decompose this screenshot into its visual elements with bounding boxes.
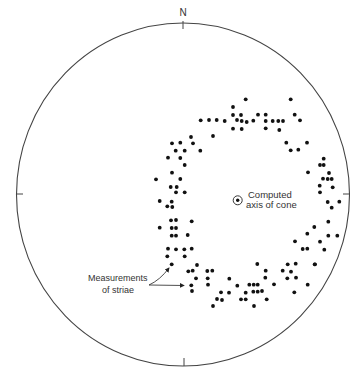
- stria-point: [244, 291, 248, 295]
- stria-point: [227, 277, 231, 281]
- stria-point: [251, 290, 255, 294]
- stria-point: [322, 248, 326, 252]
- stria-point: [178, 141, 182, 145]
- stria-point: [190, 289, 194, 293]
- stria-point: [169, 185, 173, 189]
- stria-point: [251, 119, 255, 123]
- stria-point: [174, 226, 178, 230]
- stria-point: [335, 234, 339, 238]
- stria-point: [183, 149, 187, 153]
- stria-point: [191, 141, 195, 145]
- stria-point: [305, 232, 309, 236]
- north-label: N: [179, 7, 186, 18]
- stria-point: [306, 283, 310, 287]
- stria-point: [199, 118, 203, 122]
- stria-point: [264, 269, 268, 273]
- stereonet-canvas: N Computed axis of cone Measurements of …: [0, 0, 358, 383]
- stria-point: [239, 113, 243, 117]
- stria-point: [281, 119, 285, 123]
- stria-point: [183, 163, 187, 167]
- stria-point: [194, 276, 198, 280]
- stria-point: [260, 289, 264, 293]
- stria-point: [247, 283, 251, 287]
- stria-point: [256, 283, 260, 287]
- stria-point: [231, 113, 235, 117]
- stria-point: [330, 206, 334, 210]
- stria-point: [327, 171, 331, 175]
- stria-point: [326, 220, 330, 224]
- stria-point: [289, 148, 293, 152]
- stria-point: [210, 269, 214, 273]
- stria-point: [170, 234, 174, 238]
- stria-point: [166, 247, 170, 251]
- stria-point: [296, 148, 300, 152]
- stria-point: [211, 134, 215, 138]
- stria-point: [305, 247, 309, 251]
- stria-point: [240, 127, 244, 131]
- stria-point: [235, 118, 239, 122]
- stria-point: [158, 199, 162, 203]
- stria-point: [198, 149, 202, 153]
- stria-point: [293, 239, 297, 243]
- stria-point: [158, 226, 162, 230]
- stria-point: [298, 118, 302, 122]
- stria-point: [206, 276, 210, 280]
- stria-point: [318, 184, 322, 188]
- stria-point: [220, 298, 224, 302]
- stria-point: [170, 141, 174, 145]
- stria-point: [276, 119, 280, 123]
- stria-point: [240, 119, 244, 123]
- stria-point: [244, 297, 248, 301]
- stria-point: [235, 284, 239, 288]
- stria-point: [322, 157, 326, 161]
- stria-point: [223, 119, 227, 123]
- stria-point: [318, 163, 322, 167]
- stria-point: [294, 276, 298, 280]
- stria-point: [322, 163, 326, 167]
- stria-point: [264, 119, 268, 123]
- pointer-arrow-right: [149, 285, 184, 286]
- stria-point: [231, 105, 235, 109]
- stria-point: [186, 269, 190, 273]
- stria-point: [231, 127, 235, 131]
- stria-point: [170, 262, 174, 266]
- stria-point: [190, 247, 194, 251]
- stria-point: [244, 97, 248, 101]
- stria-point: [189, 283, 193, 287]
- stria-point: [252, 304, 256, 308]
- stria-point: [284, 141, 288, 145]
- stria-point: [190, 219, 194, 223]
- stria-point: [174, 190, 178, 194]
- stria-point: [165, 254, 169, 258]
- stria-point: [186, 233, 190, 237]
- stria-point: [207, 118, 211, 122]
- stria-point: [292, 290, 296, 294]
- stria-point: [189, 135, 193, 139]
- stria-point: [330, 177, 334, 181]
- stria-point: [175, 185, 179, 189]
- stria-point: [170, 226, 174, 230]
- stria-point: [183, 254, 187, 258]
- stria-point: [256, 113, 260, 117]
- stria-point: [286, 262, 290, 266]
- stria-point: [326, 200, 330, 204]
- stria-point: [313, 262, 317, 266]
- stria-point: [293, 113, 297, 117]
- stria-point: [178, 177, 182, 181]
- stria-point: [277, 128, 281, 132]
- stria-point: [264, 126, 268, 130]
- stria-point: [239, 297, 243, 301]
- stria-point: [265, 297, 269, 301]
- stria-point: [170, 171, 174, 175]
- stria-point: [174, 218, 178, 222]
- stria-point: [227, 291, 231, 295]
- cone-axis-marker: [233, 196, 242, 205]
- stria-point: [256, 290, 260, 294]
- stria-point: [215, 297, 219, 301]
- stria-point: [306, 170, 310, 174]
- stria-point: [326, 177, 330, 181]
- stria-point: [289, 97, 293, 101]
- stria-point: [154, 177, 158, 181]
- primitive-circle: [17, 23, 350, 366]
- stria-point: [166, 156, 170, 160]
